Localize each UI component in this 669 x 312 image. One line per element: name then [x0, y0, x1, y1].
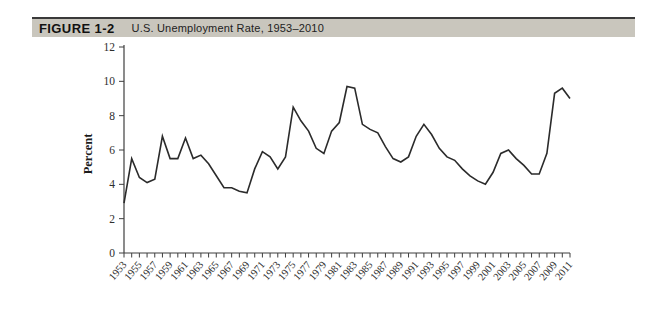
y-tick-label: 12: [104, 41, 116, 53]
y-tick-label: 10: [104, 75, 116, 87]
figure-page: FIGURE 1-2 U.S. Unemployment Rate, 1953–…: [0, 0, 669, 312]
unemployment-line-chart: 0246810121953195519571959196119631965196…: [0, 0, 669, 312]
y-tick-label: 6: [109, 144, 115, 156]
y-tick-label: 8: [109, 110, 115, 122]
y-tick-label: 0: [109, 247, 115, 259]
y-axis-title: Percent: [81, 133, 95, 175]
x-tick-label: 2011: [553, 259, 575, 282]
y-tick-label: 2: [109, 213, 115, 225]
unemployment-series-line: [124, 87, 570, 204]
y-tick-label: 4: [109, 178, 115, 190]
